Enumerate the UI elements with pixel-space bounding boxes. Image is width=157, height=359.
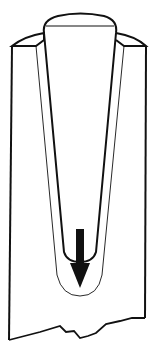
socket-body: [9, 33, 146, 340]
stem-socket-illustration: [0, 0, 157, 359]
downward-arrow-icon: [70, 229, 90, 288]
diagram-canvas: [0, 0, 157, 359]
broken-edge: [9, 318, 145, 340]
tapered-stem: [44, 14, 116, 263]
